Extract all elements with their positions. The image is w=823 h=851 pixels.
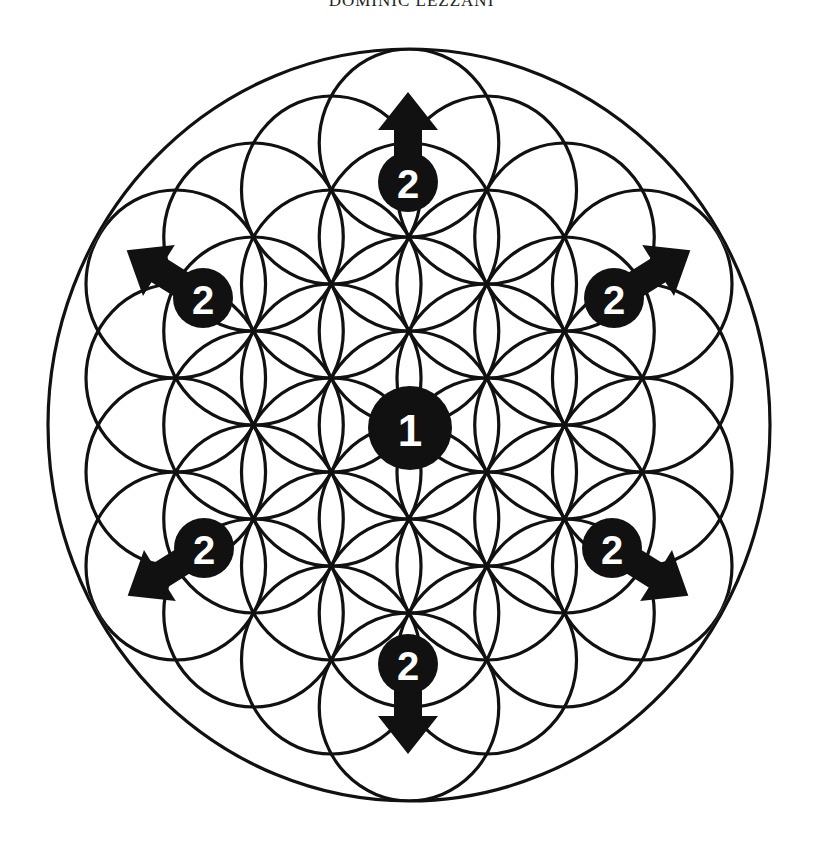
badge-up-right-label: 2	[603, 278, 625, 322]
badge-up-label: 2	[397, 162, 419, 206]
badge-down-left-label: 2	[193, 528, 215, 572]
badge-down-right-label: 2	[601, 528, 623, 572]
badge-down-label: 2	[397, 644, 419, 688]
center-badge-label: 1	[398, 406, 422, 455]
badge-up-left-label: 2	[192, 278, 214, 322]
flower-of-life-diagram: 1222222	[0, 0, 823, 851]
